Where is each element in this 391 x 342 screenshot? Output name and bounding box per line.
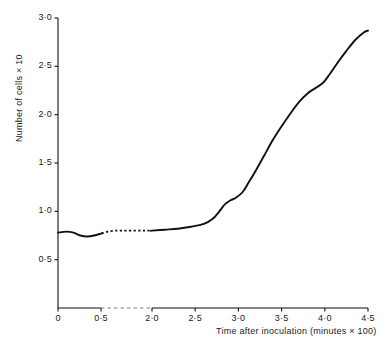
x-axis-title: Time after inoculation (minutes × 100): [216, 326, 377, 336]
y-tick-label: 2·0: [20, 109, 52, 119]
growth-curve-figure: 0·51·01·52·02·53·0 00·52·02·53·03·54·04·…: [0, 0, 391, 342]
data-curve-break-dashed: [102, 231, 152, 234]
data-curve-lag-phase: [58, 232, 102, 237]
y-axis-title: Number of cells × 10: [14, 54, 24, 142]
y-tick-label: 1·0: [20, 205, 52, 215]
y-tick-label: 1·5: [20, 157, 52, 167]
y-tick-label: 0·5: [20, 254, 52, 264]
data-curve-growth-phase: [151, 31, 368, 231]
x-tick-label: 0·5: [81, 313, 121, 323]
y-tick-label: 3·0: [20, 12, 52, 22]
plot-area: [0, 0, 391, 342]
x-tick-label: 3·0: [218, 313, 258, 323]
x-tick-label: 2·0: [132, 313, 172, 323]
x-tick-label: 2·5: [175, 313, 215, 323]
x-tick-label: 4·5: [348, 313, 388, 323]
y-tick-label: 2·5: [20, 60, 52, 70]
x-tick-label: 4·0: [305, 313, 345, 323]
x-tick-label: 0: [38, 313, 78, 323]
x-tick-label: 3·5: [262, 313, 302, 323]
